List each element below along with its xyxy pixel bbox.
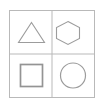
shapes-grid-figure xyxy=(0,0,103,109)
shapes-grid-canvas xyxy=(0,0,103,109)
